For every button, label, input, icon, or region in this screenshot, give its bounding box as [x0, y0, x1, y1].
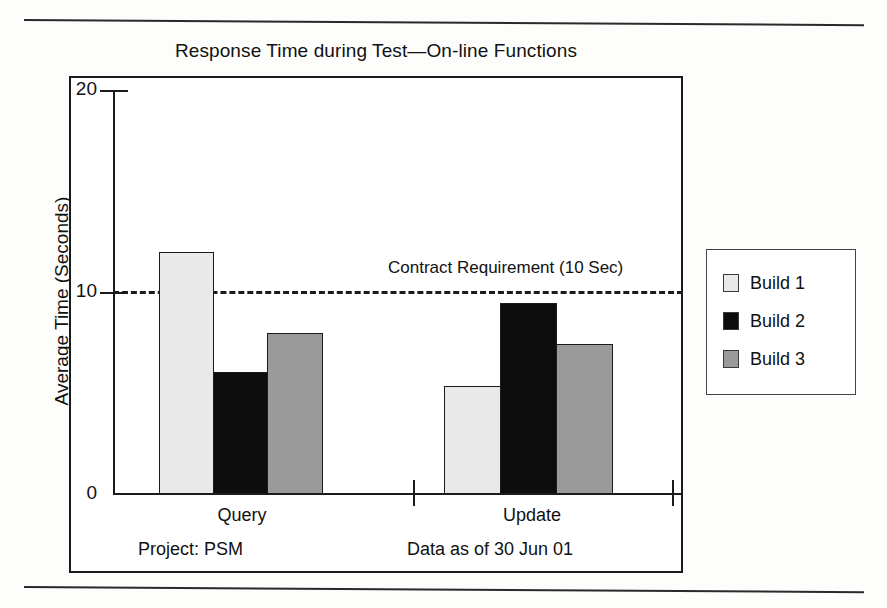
bar-update-build3 — [556, 344, 613, 494]
contract-requirement-label: Contract Requirement (10 Sec) — [388, 258, 623, 278]
bar-update-build2 — [500, 303, 557, 494]
chart-legend: Build 1 Build 2 Build 3 — [706, 249, 856, 395]
bar-query-build2 — [213, 372, 268, 494]
y-tick-20 — [100, 90, 128, 92]
bar-update-build1 — [444, 386, 501, 494]
legend-swatch-build2-icon — [723, 312, 739, 330]
figure-page: Response Time during Test—On-line Functi… — [0, 0, 887, 608]
legend-item-build3: Build 3 — [723, 340, 855, 378]
y-tick-label-20: 20 — [55, 78, 97, 100]
x-category-label-update: Update — [432, 505, 632, 526]
bar-query-build1 — [159, 252, 214, 494]
footnote-project: Project: PSM — [138, 539, 243, 560]
y-tick-label-10: 10 — [55, 280, 97, 302]
chart-title: Response Time during Test—On-line Functi… — [69, 40, 683, 62]
legend-swatch-build3-icon — [723, 350, 739, 368]
x-tick-group-separator — [413, 480, 415, 506]
legend-label-build3: Build 3 — [750, 349, 805, 370]
page-rule-top — [24, 19, 864, 26]
legend-label-build1: Build 1 — [750, 273, 805, 294]
legend-swatch-build1-icon — [723, 274, 739, 292]
y-tick-label-0: 0 — [55, 482, 97, 504]
footnote-data-as-of: Data as of 30 Jun 01 — [407, 539, 573, 560]
legend-item-build1: Build 1 — [723, 264, 855, 302]
bar-query-build3 — [267, 333, 323, 494]
legend-item-build2: Build 2 — [723, 302, 855, 340]
legend-label-build2: Build 2 — [750, 311, 805, 332]
x-category-label-query: Query — [142, 505, 342, 526]
page-rule-bottom — [24, 586, 864, 593]
x-tick-right-end — [672, 480, 674, 506]
